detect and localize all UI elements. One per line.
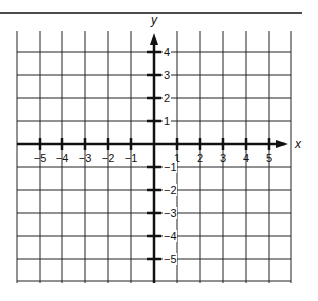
x-tick-label: −2: [102, 152, 115, 164]
x-tick-label: 2: [197, 152, 203, 164]
y-tick-label: −1: [164, 161, 177, 173]
x-axis-arrow-icon: [276, 140, 288, 148]
y-tick-label: 3: [164, 69, 170, 81]
x-tick-label: 5: [266, 152, 272, 164]
x-tick-label: −5: [34, 152, 47, 164]
coordinate-plane: x y −5−4−3−2−1123454321−1−2−3−4−5: [0, 0, 318, 301]
x-tick-label: −3: [79, 152, 92, 164]
y-tick-label: −2: [164, 184, 177, 196]
x-tick-label: −4: [56, 152, 69, 164]
x-tick-label: 4: [243, 152, 249, 164]
axes: x y: [17, 13, 302, 283]
y-tick-label: −5: [164, 253, 177, 265]
y-axis-arrow-icon: [150, 33, 158, 45]
y-tick-label: 1: [164, 115, 170, 127]
y-axis-label: y: [150, 13, 158, 27]
y-tick-label: 2: [164, 92, 170, 104]
y-tick-label: 4: [164, 46, 170, 58]
y-tick-label: −4: [164, 230, 177, 242]
x-axis-label: x: [294, 137, 302, 151]
x-tick-label: −1: [125, 152, 138, 164]
x-tick-label: 3: [220, 152, 226, 164]
y-tick-label: −3: [164, 207, 177, 219]
